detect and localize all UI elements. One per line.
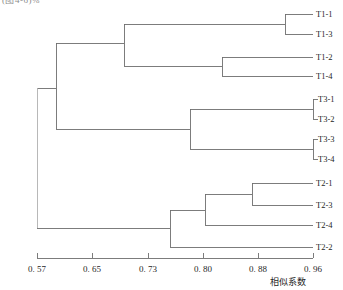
dendrogram-tree xyxy=(37,14,318,247)
leaf-label-t1-3: T1-3 xyxy=(316,29,333,39)
leaf-label-t2-1: T2-1 xyxy=(316,178,333,188)
x-axis-tick-label-0: 0. 57 xyxy=(28,264,47,274)
x-axis-tick-label-1: 0. 65 xyxy=(83,264,102,274)
dendrogram-canvas: T1-1 T1-3 T1-2 T1-4 T3-1 T3-2 T3-3 T3-4 … xyxy=(0,0,343,290)
leaf-label-t1-2: T1-2 xyxy=(316,52,333,62)
leaf-label-t3-4: T3-4 xyxy=(318,154,335,164)
leaf-label-t3-1: T3-1 xyxy=(318,94,335,104)
x-axis-tick-label-4: 0. 88 xyxy=(249,264,268,274)
x-axis: 0. 57 0. 65 0. 73 0. 80 0. 88 0. 96 相似系数 xyxy=(28,253,323,287)
leaf-label-t1-4: T1-4 xyxy=(316,71,333,81)
x-axis-title: 相似系数 xyxy=(270,276,306,287)
dendrogram-figure: (图4-6)% xyxy=(0,0,343,290)
clipped-header-text: (图4-6)% xyxy=(2,0,40,6)
x-axis-tick-label-2: 0. 73 xyxy=(139,264,158,274)
x-axis-tick-label-5: 0. 96 xyxy=(304,264,323,274)
leaf-label-group: T1-1 T1-3 T1-2 T1-4 T3-1 T3-2 T3-3 T3-4 … xyxy=(316,9,335,252)
leaf-label-t3-3: T3-3 xyxy=(318,134,335,144)
leaf-label-t2-4: T2-4 xyxy=(316,220,333,230)
leaf-label-t1-1: T1-1 xyxy=(316,9,333,19)
leaf-label-t2-2: T2-2 xyxy=(316,242,333,252)
leaf-label-t3-2: T3-2 xyxy=(318,114,335,124)
x-axis-tick-label-3: 0. 80 xyxy=(194,264,213,274)
leaf-label-t2-3: T2-3 xyxy=(316,200,333,210)
